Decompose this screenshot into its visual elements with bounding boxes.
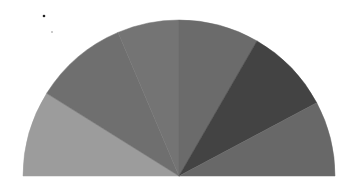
pie-chart-canvas: Slice 1: 32Slice 2: 35Slice 3: 23Slice 4… <box>0 0 352 187</box>
stray-dot-1 <box>43 15 46 18</box>
stray-dot-2 <box>51 31 53 33</box>
semicircle-pie-chart: Slice 1: 32Slice 2: 35Slice 3: 23Slice 4… <box>0 0 352 187</box>
